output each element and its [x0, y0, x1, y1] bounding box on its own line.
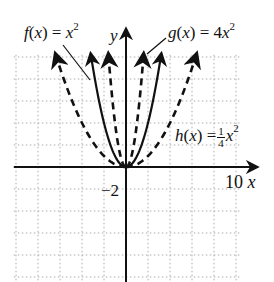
- curve-f-right: [126, 54, 161, 167]
- curve-g-right: [126, 54, 144, 167]
- g-name: g: [168, 23, 177, 42]
- y-axis-letter: y: [110, 26, 118, 45]
- curve-h-left: [55, 54, 126, 167]
- h-fraction: 14: [217, 126, 225, 149]
- grid-lines: [14, 55, 242, 282]
- y-axis-label: y: [110, 27, 118, 44]
- f-leader-line: [63, 45, 90, 80]
- curve-g-left: [108, 54, 126, 167]
- f-expr: (x) = x: [29, 23, 74, 42]
- g-exponent: 2: [230, 20, 236, 32]
- g-leader-line: [147, 38, 166, 54]
- h-frac-den: 4: [217, 138, 225, 149]
- h-exponent: 2: [233, 122, 239, 134]
- axes: [14, 29, 257, 282]
- h-label: h(x) =14x2: [175, 126, 239, 149]
- g-label: g(x) = 4x2: [168, 24, 235, 41]
- f-exponent: 2: [73, 20, 79, 32]
- x-tick-label: 10 x: [225, 173, 256, 191]
- curve-h-right: [126, 54, 197, 167]
- f-label: f(x) = x2: [24, 24, 79, 41]
- h-name: h: [175, 126, 184, 145]
- g-expr: (x) = 4x: [177, 23, 230, 42]
- x-axis-letter: x: [248, 172, 256, 192]
- curve-f-left: [91, 54, 126, 167]
- y-tick-neg2: −2: [101, 181, 119, 200]
- x-tick-10: 10: [225, 172, 243, 192]
- y-tick-label: −2: [101, 182, 119, 199]
